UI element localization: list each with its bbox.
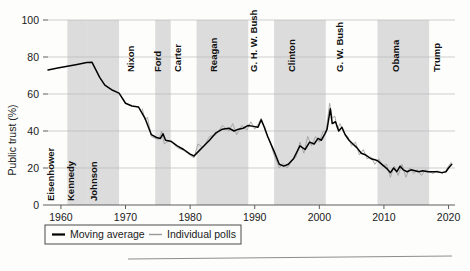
public-trust-chart: 020406080100 196019701980199020002010202… <box>0 0 470 271</box>
x-tick-label-1990: 1990 <box>243 211 267 223</box>
president-label-g-w-bush: G. W. Bush <box>334 22 345 72</box>
president-label-clinton: Clinton <box>286 39 297 72</box>
figure-bottom-rule <box>128 256 452 259</box>
y-tick-label-0: 0 <box>33 199 39 211</box>
legend-label-moving-average: Moving average <box>70 228 145 240</box>
president-label-johnson: Johnson <box>88 161 99 201</box>
x-tick-label-2000: 2000 <box>308 211 332 223</box>
y-tick-label-40: 40 <box>27 125 39 137</box>
term-band-obama <box>377 20 429 205</box>
term-band-clinton <box>274 20 326 205</box>
x-tick-label-2020: 2020 <box>437 211 461 223</box>
figure-container: 020406080100 196019701980199020002010202… <box>0 0 470 271</box>
x-tick-label-1970: 1970 <box>114 211 138 223</box>
x-axis-tick-labels: 1960197019801990200020102020 <box>49 211 460 223</box>
president-label-eisenhower: Eisenhower <box>45 147 56 201</box>
president-label-kennedy: Kennedy <box>65 160 76 201</box>
president-label-reagan: Reagan <box>208 37 219 72</box>
president-label-trump: Trump <box>431 43 442 72</box>
x-tick-label-1980: 1980 <box>178 211 202 223</box>
y-axis-tick-labels: 020406080100 <box>21 14 39 211</box>
x-tick-label-2010: 2010 <box>372 211 396 223</box>
president-label-g-h-w-bush: G. H. W. Bush <box>248 10 259 72</box>
chart-legend: Moving averageIndividual polls <box>45 225 241 244</box>
y-tick-label-100: 100 <box>21 14 39 26</box>
y-tick-label-20: 20 <box>27 162 39 174</box>
term-band-reagan <box>197 20 249 205</box>
president-label-nixon: Nixon <box>125 45 136 72</box>
president-label-obama: Obama <box>390 39 401 72</box>
president-label-ford: Ford <box>152 51 163 72</box>
x-tick-label-1960: 1960 <box>49 211 73 223</box>
y-tick-label-60: 60 <box>27 88 39 100</box>
y-tick-label-80: 80 <box>27 51 39 63</box>
president-label-carter: Carter <box>172 44 183 72</box>
legend-label-individual-polls: Individual polls <box>167 228 236 240</box>
y-axis-title: Public trust (%) <box>6 104 18 175</box>
term-band-ford <box>155 20 171 205</box>
